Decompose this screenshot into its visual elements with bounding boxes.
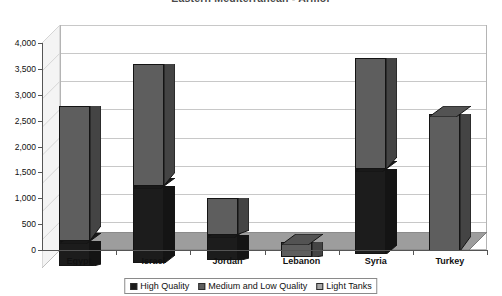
- y-tick-label: 3,500: [15, 64, 36, 74]
- chart-legend: High QualityMedium and Low QualityLight …: [124, 278, 377, 294]
- bar-face: [355, 169, 386, 254]
- bar-egypt[interactable]: [59, 106, 90, 266]
- x-category-label: Turkey: [435, 256, 464, 266]
- bar-jordan[interactable]: [207, 198, 238, 260]
- y-tick-mark: [38, 172, 42, 173]
- bar-segment-medium-and-low-quality[interactable]: [59, 106, 90, 241]
- legend-item-medium-and-low-quality[interactable]: Medium and Low Quality: [198, 281, 307, 291]
- legend-label: Medium and Low Quality: [208, 281, 307, 291]
- gridline: [61, 109, 486, 110]
- legend-swatch-icon: [198, 283, 205, 290]
- x-category-label: Israel: [141, 256, 165, 266]
- x-tick-mark: [265, 250, 266, 255]
- legend-label: High Quality: [140, 281, 189, 291]
- bar-segment-medium-and-low-quality[interactable]: [207, 198, 238, 234]
- x-category-label: Jordan: [212, 256, 242, 266]
- y-tick-label: 1,000: [15, 193, 36, 203]
- x-category-label: Lebanon: [283, 256, 321, 266]
- y-axis: [42, 43, 43, 250]
- y-tick-label: 0: [31, 245, 36, 255]
- y-tick-label: 2,500: [15, 116, 36, 126]
- bar-face: [355, 58, 386, 169]
- x-tick-mark: [116, 250, 117, 255]
- y-tick-label: 3,000: [15, 90, 36, 100]
- bar-side: [164, 64, 175, 186]
- bar-face: [207, 198, 238, 234]
- bar-side: [386, 58, 397, 169]
- gridline: [61, 166, 486, 167]
- bar-segment-high-quality[interactable]: [355, 169, 386, 254]
- bar-segment-medium-and-low-quality[interactable]: [429, 114, 460, 251]
- bar-side: [460, 114, 471, 251]
- x-tick-mark: [487, 250, 488, 255]
- gridline: [61, 138, 486, 139]
- chart-container: Eastern Mediterranean - Armor 05001,0001…: [0, 0, 502, 296]
- chart-title: Eastern Mediterranean - Armor: [0, 0, 502, 4]
- bar-top: [281, 231, 323, 242]
- plot-area: [60, 25, 487, 250]
- bar-face: [133, 186, 164, 264]
- x-tick-mark: [413, 250, 414, 255]
- bar-segment-medium-and-low-quality[interactable]: [133, 64, 164, 186]
- bar-segment-medium-and-low-quality[interactable]: [355, 58, 386, 169]
- y-tick-mark: [38, 69, 42, 70]
- y-tick-mark: [38, 43, 42, 44]
- legend-label: Light Tanks: [326, 281, 371, 291]
- bar-side: [238, 198, 249, 234]
- y-tick-mark: [38, 224, 42, 225]
- legend-swatch-icon: [316, 283, 323, 290]
- x-tick-mark: [190, 250, 191, 255]
- y-tick-label: 2,000: [15, 142, 36, 152]
- bar-turkey[interactable]: [429, 114, 460, 251]
- gridline: [61, 25, 486, 26]
- bar-segment-high-quality[interactable]: [133, 186, 164, 264]
- bar-israel[interactable]: [133, 64, 164, 263]
- y-tick-mark: [38, 121, 42, 122]
- y-tick-label: 1,500: [15, 167, 36, 177]
- y-tick-mark: [38, 147, 42, 148]
- legend-swatch-icon: [130, 283, 137, 290]
- y-tick-mark: [38, 95, 42, 96]
- legend-item-high-quality[interactable]: High Quality: [130, 281, 189, 291]
- bar-face: [133, 64, 164, 186]
- x-tick-mark: [339, 250, 340, 255]
- y-tick-mark: [38, 198, 42, 199]
- bar-side: [386, 169, 397, 254]
- bar-side: [90, 106, 101, 241]
- bar-top: [429, 103, 471, 114]
- gridline: [61, 53, 486, 54]
- x-category-label: Egypt: [67, 256, 92, 266]
- y-tick-mark: [38, 250, 42, 251]
- gridline: [61, 81, 486, 82]
- gridline: [61, 222, 486, 223]
- legend-item-light-tanks[interactable]: Light Tanks: [316, 281, 371, 291]
- bar-syria[interactable]: [355, 58, 386, 255]
- bar-side: [164, 186, 175, 264]
- bar-face: [59, 106, 90, 241]
- chart-side-wall: [42, 25, 60, 268]
- gridline: [61, 194, 486, 195]
- x-category-label: Syria: [365, 256, 387, 266]
- y-tick-label: 4,000: [15, 38, 36, 48]
- y-tick-label: 500: [22, 219, 36, 229]
- bar-face: [429, 114, 460, 251]
